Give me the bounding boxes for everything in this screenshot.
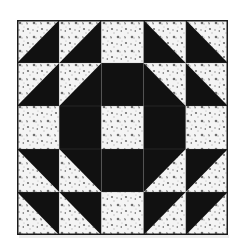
quilt-cell-4-2-print <box>101 192 143 235</box>
quilt-cell-2-0-print <box>17 106 59 149</box>
quilt-cell-2-1-dark <box>59 106 101 149</box>
quilt-cell-2-2-print <box>101 106 143 149</box>
quilt-block-graphic <box>17 20 228 235</box>
quilt-cell-3-2-dark <box>101 149 143 192</box>
quilt-cell-1-2-dark <box>101 63 143 106</box>
quilt-block <box>17 20 228 235</box>
quilt-cell-2-3-dark <box>144 106 186 149</box>
block-shadow <box>19 235 229 238</box>
quilt-cell-2-4-print <box>186 106 228 149</box>
quilt-cell-0-2-print <box>101 20 143 63</box>
